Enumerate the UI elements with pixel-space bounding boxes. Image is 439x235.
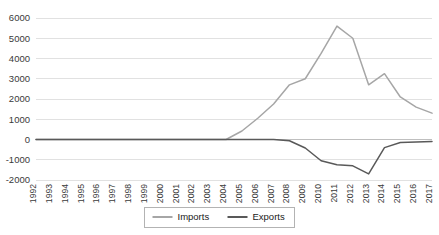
x-axis-tick-label: 2016 [408, 184, 418, 203]
gridlines [36, 18, 432, 180]
x-axis-tick-label: 2017 [424, 184, 434, 203]
y-axis-tick-labels: 6000500040003000200010000-1000-2000 [6, 12, 30, 185]
x-axis-tick-label: 1992 [28, 184, 38, 203]
x-axis-tick-label: 2010 [313, 184, 323, 203]
y-axis-tick-label: 5000 [9, 33, 30, 44]
x-axis-tick-label: 1998 [123, 184, 133, 203]
x-axis-tick-label: 1999 [139, 184, 149, 203]
x-axis-tick-label: 2013 [361, 184, 371, 203]
y-axis-tick-label: 3000 [9, 73, 30, 84]
x-axis-tick-label: 2008 [281, 184, 291, 203]
y-axis-tick-label: 2000 [9, 93, 30, 104]
chart-canvas: 6000500040003000200010000-1000-2000 1992… [0, 0, 439, 235]
x-axis-tick-label: 2007 [266, 184, 276, 203]
x-axis-tick-label: 2004 [218, 184, 228, 203]
chart-legend: ImportsExports [145, 207, 295, 227]
x-axis-tick-label: 2000 [155, 184, 165, 203]
legend-label-exports: Exports [253, 211, 285, 222]
x-axis-tick-label: 1995 [76, 184, 86, 203]
x-axis-tick-label: 1997 [107, 184, 117, 203]
x-axis-tick-label: 1996 [91, 184, 101, 203]
x-axis-tick-labels: 1992199319941995199619971998199920002001… [28, 184, 434, 203]
x-axis-tick-label: 2002 [186, 184, 196, 203]
x-axis-tick-label: 2005 [234, 184, 244, 203]
x-axis-tick-label: 2006 [250, 184, 260, 203]
data-series-group [36, 26, 432, 174]
y-axis-tick-label: 1000 [9, 114, 30, 125]
y-axis-tick-label: 0 [25, 134, 30, 145]
y-axis-tick-label: -2000 [6, 174, 30, 185]
x-axis-tick-label: 1993 [44, 184, 54, 203]
x-axis-tick-label: 2011 [329, 184, 339, 203]
x-axis-tick-label: 2003 [202, 184, 212, 203]
x-axis-tick-label: 2015 [392, 184, 402, 203]
x-axis-tick-label: 2014 [376, 184, 386, 203]
series-line-exports [36, 140, 432, 174]
series-line-imports [36, 26, 432, 139]
y-axis-tick-label: 4000 [9, 53, 30, 64]
x-axis-tick-label: 2012 [345, 184, 355, 203]
legend-label-imports: Imports [178, 211, 210, 222]
y-axis-tick-label: -1000 [6, 154, 30, 165]
x-axis-tick-label: 2001 [171, 184, 181, 203]
y-axis-tick-label: 6000 [9, 12, 30, 23]
x-axis-tick-label: 2009 [297, 184, 307, 203]
line-chart: 6000500040003000200010000-1000-2000 1992… [0, 0, 439, 235]
x-axis-tick-label: 1994 [60, 184, 70, 203]
